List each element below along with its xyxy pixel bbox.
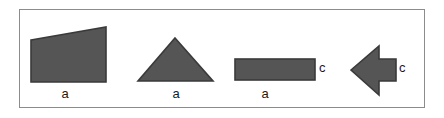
rectangle-label-c: c (319, 61, 333, 74)
left-arrow-shape (351, 46, 396, 95)
rectangle-label-a: a (252, 87, 278, 100)
figure-canvas: a a a c c (0, 0, 444, 118)
trapezoid-shape (31, 27, 106, 82)
arrow-label-c: c (399, 61, 413, 74)
rectangle-shape (235, 59, 315, 80)
triangle-shape (138, 38, 213, 81)
triangle-label-a: a (163, 87, 189, 100)
trapezoid-label-a: a (52, 87, 78, 100)
